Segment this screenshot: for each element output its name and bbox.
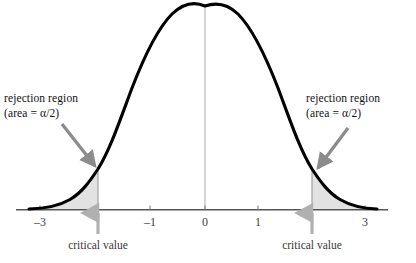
x-tick-label-neg1: –1 (135, 216, 165, 228)
x-tick-label-1: 1 (243, 216, 273, 228)
right-rejection-region-label: rejection region (area = α/2) (306, 91, 380, 120)
left-rejection-region-line2: (area = α/2) (4, 106, 78, 121)
left-rejection-region-line1: rejection region (4, 91, 78, 106)
critical-value-label-left: critical value (33, 239, 163, 251)
right-rejection-region-line2: (area = α/2) (306, 106, 380, 121)
x-tick-label-3: 3 (350, 216, 380, 228)
left-annotation-arrow (62, 124, 95, 166)
x-tick-label-neg3: –3 (25, 216, 55, 228)
statistics-figure: rejection region (area = α/2) rejection … (0, 0, 416, 263)
x-tick-label-0: 0 (190, 216, 220, 228)
right-annotation-arrow (318, 128, 348, 168)
right-rejection-shade (312, 170, 375, 210)
right-rejection-region-line1: rejection region (306, 91, 380, 106)
left-rejection-region-label: rejection region (area = α/2) (4, 91, 78, 120)
critical-value-label-right: critical value (247, 239, 377, 251)
